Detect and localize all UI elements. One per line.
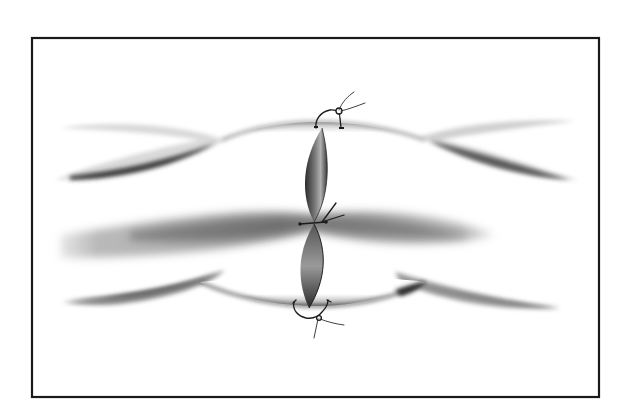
suture-illustration [0,0,619,412]
lower-right-strand [395,272,560,309]
lower-left-strand [62,270,225,305]
upper-left-strand [55,124,225,180]
upper-right-strand [420,120,578,180]
middle-strand [40,200,520,270]
